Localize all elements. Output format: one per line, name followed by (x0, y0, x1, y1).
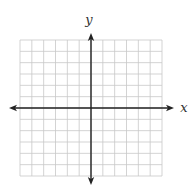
x-axis-label: x (180, 100, 188, 115)
y-axis-label: y (84, 12, 93, 27)
axes (9, 33, 174, 185)
coordinate-plane: x y (0, 0, 195, 194)
